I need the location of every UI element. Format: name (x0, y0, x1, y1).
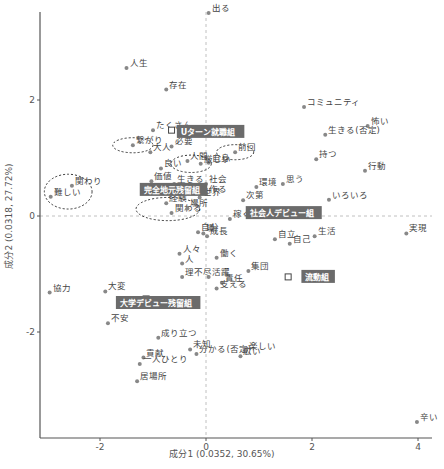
point-label: 一人ひとり (143, 354, 188, 364)
point-marker (49, 195, 53, 199)
point-marker (363, 169, 367, 173)
point-label: 大変 (108, 281, 126, 291)
data-point: いろいろ (327, 190, 368, 202)
point-label: 環境 (259, 177, 277, 187)
point-label: 存在 (169, 80, 187, 90)
y-axis-title: 成分2 (0.0318, 27.72%) (3, 163, 14, 268)
data-point: 行動 (363, 161, 386, 173)
data-point: 生きる(否定) (323, 125, 380, 137)
data-point: 人 (180, 254, 194, 266)
point-marker (151, 128, 155, 132)
point-label: 場所 (190, 198, 208, 208)
point-label: 次第 (246, 190, 264, 200)
data-point: 集団 (246, 261, 269, 273)
point-label: 人生 (130, 58, 148, 68)
point-label: いろいろ (332, 190, 368, 200)
word-points: 出る人生存在コミュニティ怖い生きる(否定)持つ行動たくさん繋がり大人必要前回人間… (48, 3, 438, 424)
group-label-text: Uターン就職組 (181, 127, 236, 137)
point-label: 人々 (183, 244, 201, 254)
point-marker (159, 166, 163, 170)
point-label: 協力 (53, 283, 71, 293)
point-marker (246, 269, 250, 273)
point-label: 社会 (209, 174, 227, 184)
point-marker (194, 352, 198, 356)
x-axis-title: 成分1 (0.0352, 30.65%) (169, 448, 274, 459)
point-marker (164, 201, 168, 205)
point-label: 出る (212, 3, 230, 13)
point-marker (106, 321, 110, 325)
data-point: 居場所 (135, 371, 167, 383)
point-label: 生きる(否定) (328, 125, 380, 135)
y-tick-label: 2 (29, 95, 35, 105)
point-marker (199, 162, 203, 166)
point-label: 大人 (153, 142, 171, 152)
group-label: 流動組 (285, 270, 335, 283)
group-centroid-marker (169, 127, 175, 133)
group-centroid-marker (285, 274, 291, 280)
point-label: 実現 (409, 223, 427, 233)
x-tick-label: -2 (96, 442, 105, 452)
point-marker (404, 231, 408, 235)
group-label: 完全地元残留組 (140, 183, 208, 196)
data-point: 働く (215, 248, 238, 260)
point-marker (103, 289, 107, 293)
data-point: 生活 (313, 226, 336, 238)
point-marker (327, 198, 331, 202)
group-label-text: 完全地元残留組 (144, 185, 200, 195)
point-marker (302, 105, 306, 109)
point-marker (178, 252, 182, 256)
point-marker (241, 198, 245, 202)
data-point: 人生 (125, 58, 148, 70)
point-marker (215, 287, 219, 291)
point-marker (205, 234, 209, 238)
x-tick-label: 4 (415, 442, 421, 452)
group-label-text: 流動組 (305, 272, 329, 282)
group-label: Uターン就職組 (169, 125, 245, 138)
data-point: 実現 (404, 223, 427, 235)
point-label: 成り立つ (161, 328, 197, 338)
point-marker (215, 256, 219, 260)
data-point: 支える (215, 279, 247, 291)
group-label: 大学デビュー残留組 (116, 296, 200, 309)
data-point: 難しい (49, 187, 81, 199)
point-label: 行動 (368, 161, 386, 171)
point-label: 不安 (111, 313, 129, 323)
data-point: 良い (159, 158, 182, 170)
data-point: 必要 (170, 136, 193, 148)
point-marker (180, 275, 184, 279)
point-label: 成長 (210, 226, 228, 236)
point-marker (188, 347, 192, 351)
group-label-text: 大学デビュー残留組 (120, 298, 192, 308)
point-marker (185, 159, 189, 163)
data-point: 不安 (106, 313, 129, 325)
point-label: 関わり (75, 176, 102, 186)
axes: -2024-202 (26, 12, 432, 452)
y-tick-label: 0 (29, 211, 35, 221)
point-marker (170, 211, 174, 215)
data-point: 持つ (314, 149, 337, 161)
point-marker (415, 420, 419, 424)
reference-lines (40, 12, 432, 438)
data-point: 辛い (415, 412, 438, 424)
point-marker (149, 179, 153, 183)
point-label: 辛い (420, 412, 438, 422)
point-marker (201, 231, 205, 235)
point-label: 支える (220, 279, 247, 289)
data-point: 大変 (103, 281, 126, 293)
data-point: 協力 (48, 283, 71, 295)
point-marker (48, 291, 52, 295)
point-label: 前回 (238, 142, 256, 152)
point-label: 持つ (319, 149, 337, 159)
y-tick-label: -2 (26, 327, 35, 337)
point-label: 人 (185, 254, 194, 264)
point-marker (196, 230, 200, 234)
data-point: 前回 (233, 142, 256, 154)
point-marker (207, 11, 211, 15)
point-marker (170, 144, 174, 148)
data-point: 存在 (164, 80, 187, 92)
point-marker (314, 157, 318, 161)
data-point: コミュニティ (302, 97, 360, 109)
data-point: 一人ひとり (138, 354, 188, 366)
point-label: 厳しい (204, 154, 231, 164)
x-tick-label: 2 (309, 442, 315, 452)
